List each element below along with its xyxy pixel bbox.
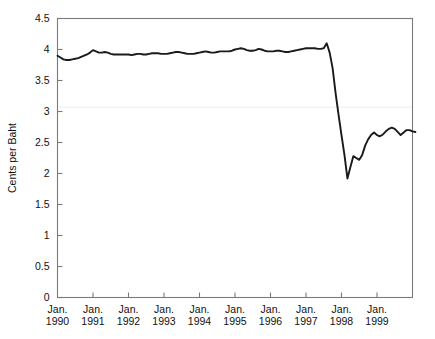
x-tick-label-year: 1993 <box>152 315 176 327</box>
exchange-rate-chart: 00.511.522.533.544.5 Jan.1990Jan.1991Jan… <box>0 0 435 339</box>
x-tick-label-month: Jan. <box>154 303 174 315</box>
y-tick-label: 2.5 <box>35 136 50 148</box>
y-tick-label: 2 <box>44 167 50 179</box>
chart-canvas: 00.511.522.533.544.5 Jan.1990Jan.1991Jan… <box>0 0 435 339</box>
x-tick-label-year: 1997 <box>294 315 318 327</box>
y-tick-label: 0.5 <box>35 260 50 272</box>
x-tick-label-month: Jan. <box>48 303 68 315</box>
x-tick-label-year: 1991 <box>81 315 105 327</box>
x-tick-label-year: 1992 <box>117 315 141 327</box>
y-axis-title-text: Cents per Baht <box>6 123 18 193</box>
y-tick-label: 3.5 <box>35 74 50 86</box>
y-tick-label: 4 <box>44 43 50 55</box>
x-tick-label-year: 1995 <box>223 315 247 327</box>
y-tick-label: 1 <box>44 229 50 241</box>
y-axis-title: Cents per Baht <box>6 123 18 193</box>
x-tick-label-month: Jan. <box>190 303 210 315</box>
y-tick-label: 3 <box>44 105 50 117</box>
x-tick-label-month: Jan. <box>332 303 352 315</box>
x-tick-label-month: Jan. <box>225 303 245 315</box>
x-tick-label-year: 1996 <box>259 315 283 327</box>
x-tick-label-month: Jan. <box>367 303 387 315</box>
chart-background <box>0 0 435 339</box>
x-tick-label-year: 1998 <box>330 315 354 327</box>
y-tick-label: 1.5 <box>35 198 50 210</box>
x-tick-label-year: 1994 <box>188 315 212 327</box>
x-tick-label-year: 1990 <box>46 315 70 327</box>
y-tick-label: 0 <box>44 291 50 303</box>
x-tick-label-month: Jan. <box>83 303 103 315</box>
x-tick-label-month: Jan. <box>296 303 316 315</box>
x-tick-label-month: Jan. <box>119 303 139 315</box>
x-tick-label-month: Jan. <box>261 303 281 315</box>
x-tick-label-year: 1999 <box>365 315 389 327</box>
y-tick-label: 4.5 <box>35 12 50 24</box>
